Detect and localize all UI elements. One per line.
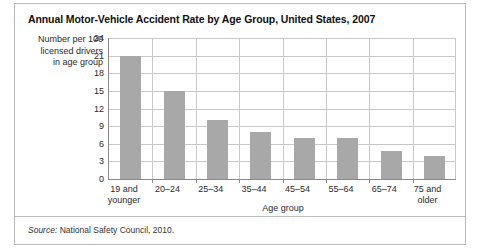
x-axis-tick bbox=[413, 179, 414, 183]
x-axis-tick bbox=[196, 179, 197, 183]
y-tick-label: 9 bbox=[68, 122, 104, 131]
source-value: National Safety Council, 2010. bbox=[60, 225, 174, 235]
x-tick-label-line2: younger bbox=[93, 195, 155, 206]
x-axis-tick bbox=[152, 179, 153, 183]
bar-45-54[interactable] bbox=[294, 138, 315, 179]
y-tick-label: 18 bbox=[68, 69, 104, 78]
x-tick-label-line1: 75 and bbox=[397, 184, 459, 195]
bar-55-64[interactable] bbox=[337, 138, 358, 179]
x-axis-title: Age group bbox=[243, 203, 323, 213]
bar-75-and-older[interactable] bbox=[424, 156, 445, 180]
source-label: Source: bbox=[28, 225, 57, 235]
gridline-vertical bbox=[283, 38, 284, 179]
y-tick-label: 0 bbox=[68, 175, 104, 184]
chart-plot: Number per 100 licensed drivers in age g… bbox=[15, 4, 467, 246]
bar-20-24[interactable] bbox=[164, 91, 185, 179]
y-tick-label: 15 bbox=[68, 87, 104, 96]
figure-frame: Annual Motor-Vehicle Accident Rate by Ag… bbox=[14, 3, 466, 245]
bar-65-74[interactable] bbox=[381, 151, 402, 179]
y-tick-label: 6 bbox=[68, 140, 104, 149]
y-tick-label: 3 bbox=[68, 157, 104, 166]
gridline-vertical bbox=[455, 38, 456, 179]
x-axis-tick bbox=[283, 179, 284, 183]
x-tick-label-75-and-older: 75 and older bbox=[397, 184, 459, 207]
plot-area bbox=[108, 38, 456, 180]
gridline-vertical bbox=[326, 38, 327, 179]
x-tick-label-line2: older bbox=[397, 195, 459, 206]
bar-35-44[interactable] bbox=[250, 132, 271, 179]
bar-25-34[interactable] bbox=[207, 120, 228, 179]
y-tick-label: 24 bbox=[68, 34, 104, 43]
gridline-vertical bbox=[152, 38, 153, 179]
gridline-vertical bbox=[196, 38, 197, 179]
x-axis-tick bbox=[239, 179, 240, 183]
y-tick-label: 21 bbox=[68, 52, 104, 61]
source-note: Source: National Safety Council, 2010. bbox=[28, 225, 174, 235]
bar-19-and-younger[interactable] bbox=[120, 56, 141, 179]
y-tick-label: 12 bbox=[68, 105, 104, 114]
x-axis-tick bbox=[326, 179, 327, 183]
gridline-vertical bbox=[239, 38, 240, 179]
divider bbox=[15, 216, 465, 217]
x-axis-tick bbox=[369, 179, 370, 183]
gridline-vertical bbox=[369, 38, 370, 179]
gridline-vertical bbox=[413, 38, 414, 179]
